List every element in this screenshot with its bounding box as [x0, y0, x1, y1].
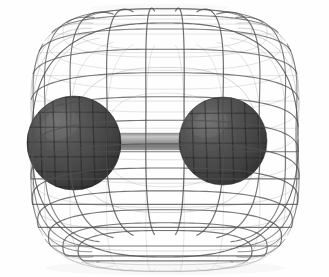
molecule-isosurface-figure: Diatomic molecule electron density isosu…: [0, 0, 329, 277]
molecule-scene-svg: [0, 0, 329, 277]
